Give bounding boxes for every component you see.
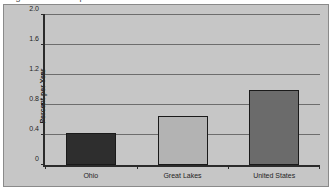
- y-tick-label: 0: [35, 155, 39, 162]
- y-tick-label: 0.8: [29, 95, 39, 102]
- bar-group: Ohio: [45, 15, 137, 165]
- y-tick-label: 1.2: [29, 65, 39, 72]
- bar-united-states[interactable]: [249, 90, 299, 165]
- cropped-title-text: Figure 3. Percent per Year: [8, 0, 113, 2]
- x-tick-label: Great Lakes: [163, 172, 201, 179]
- chart-plot-frame: Percent per Year 00.40.81.21.62.0 OhioGr…: [3, 4, 329, 187]
- bar-group: United States: [228, 15, 320, 165]
- y-tick-label: 2.0: [29, 5, 39, 12]
- x-tick-label: United States: [253, 172, 295, 179]
- x-tick-label: Ohio: [83, 172, 98, 179]
- bar-ohio[interactable]: [66, 133, 116, 165]
- bar-great-lakes[interactable]: [158, 116, 208, 165]
- bars-layer: OhioGreat LakesUnited States: [45, 15, 320, 165]
- y-tick-label: 0.4: [29, 125, 39, 132]
- x-tick-mark: [137, 165, 138, 169]
- bar-chart-figure: Figure 3. Percent per Year Percent per Y…: [0, 0, 332, 194]
- x-tick-mark: [45, 165, 46, 169]
- y-tick-label: 1.6: [29, 35, 39, 42]
- x-tick-mark: [319, 165, 320, 169]
- x-tick-mark: [228, 165, 229, 169]
- bar-group: Great Lakes: [137, 15, 229, 165]
- chart-plot-area: 00.40.81.21.62.0 OhioGreat LakesUnited S…: [43, 15, 320, 167]
